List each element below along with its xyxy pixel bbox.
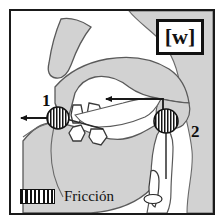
friction-marker-1	[47, 107, 69, 129]
friction-hatch-swatch	[20, 189, 55, 204]
larynx-vocal-folds	[144, 195, 162, 204]
figure-root: [w] 1 2 Fricción	[0, 0, 224, 224]
friction-marker-2	[154, 109, 178, 133]
legend: Fricción	[20, 189, 114, 204]
phoneme-symbol: [w]	[165, 26, 196, 48]
marker-2-number: 2	[191, 123, 200, 140]
legend-label: Fricción	[64, 189, 114, 204]
marker-1-number: 1	[42, 92, 51, 109]
phoneme-label-box: [w]	[156, 19, 204, 55]
figure-border: [w] 1 2 Fricción	[9, 9, 215, 215]
